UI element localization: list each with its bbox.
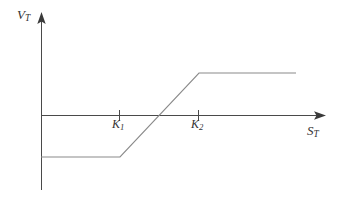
x-axis-label: ST <box>307 124 319 140</box>
y-axis-label: VT <box>17 8 30 24</box>
tick-label-k1-subscript: 1 <box>120 122 124 132</box>
y-axis-label-base: V <box>17 7 25 22</box>
payoff-diagram-svg <box>0 0 346 197</box>
y-axis-label-subscript: T <box>25 13 30 23</box>
tick-label-k2-subscript: 2 <box>199 122 203 132</box>
tick-label-k2: K2 <box>191 118 203 132</box>
tick-label-k2-base: K <box>191 117 199 131</box>
tick-label-k1-base: K <box>112 117 120 131</box>
figure-canvas: VT ST K1 K2 <box>0 0 346 197</box>
tick-label-k1: K1 <box>112 118 124 132</box>
x-axis-label-subscript: T <box>314 129 319 139</box>
